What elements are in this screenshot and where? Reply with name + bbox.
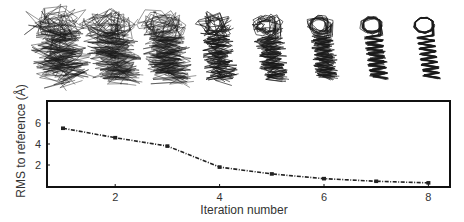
data-point-marker	[113, 136, 117, 140]
data-point-marker	[374, 179, 378, 183]
protein-ensemble-5	[252, 14, 289, 82]
protein-ensemble-2	[79, 9, 143, 86]
x-tick-label: 2	[112, 191, 118, 203]
y-axis-label: RMS to reference (Å)	[13, 84, 28, 197]
series-line	[63, 128, 428, 183]
x-tick-label: 6	[321, 191, 327, 203]
protein-ensemble-8	[414, 17, 441, 79]
data-point-marker	[270, 172, 274, 176]
data-series	[61, 126, 430, 184]
protein-ensemble-6	[307, 15, 339, 80]
protein-ensemble-1	[24, 4, 96, 91]
protein-ensemble-3	[137, 10, 197, 88]
x-tick-label: 4	[217, 191, 223, 203]
x-tick-label: 8	[425, 191, 431, 203]
protein-ensemble-4	[195, 11, 238, 85]
data-point-marker	[426, 181, 430, 185]
y-tick-label: 6	[35, 117, 41, 129]
x-axis-label: Iteration number	[200, 203, 287, 217]
y-tick-label: 4	[35, 138, 41, 150]
data-point-marker	[322, 177, 326, 181]
rms-convergence-figure: 246 2468 Iteration number RMS to referen…	[0, 0, 464, 222]
data-point-marker	[218, 165, 222, 169]
data-point-marker	[165, 144, 169, 148]
y-tick-label: 2	[35, 159, 41, 171]
protein-ensemble-strip	[24, 4, 441, 91]
protein-ensemble-7	[360, 16, 389, 79]
data-point-marker	[61, 126, 65, 130]
plot-frame	[47, 101, 450, 187]
